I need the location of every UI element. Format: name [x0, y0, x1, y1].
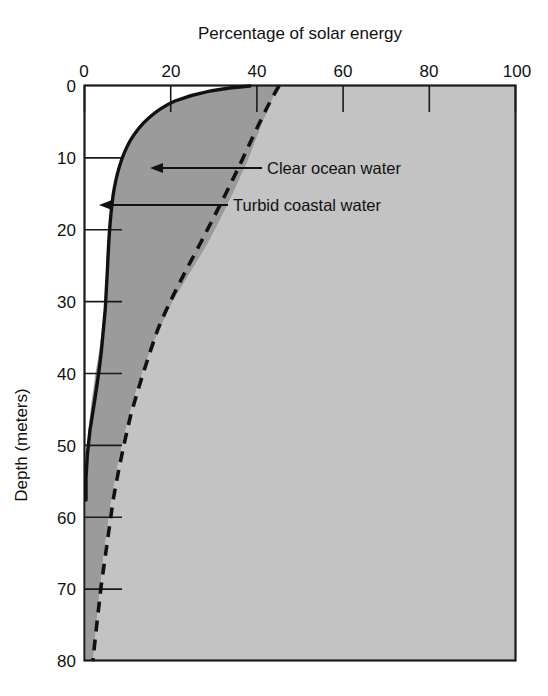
y-tick-label-20: 20: [57, 221, 76, 240]
y-axis-tick-labels: 0 10 20 30 40 50 60 70 80: [57, 77, 76, 671]
solar-energy-depth-chart: Percentage of solar energy Depth (meters…: [0, 0, 548, 696]
x-tick-label-100: 100: [503, 62, 531, 81]
x-tick-label-20: 20: [162, 62, 181, 81]
x-tick-label-0: 0: [79, 62, 88, 81]
clear-ocean-water-label: Clear ocean water: [267, 159, 401, 177]
chart-svg: Percentage of solar energy Depth (meters…: [0, 0, 548, 696]
x-tick-label-40: 40: [248, 62, 267, 81]
y-tick-label-10: 10: [57, 149, 76, 168]
y-tick-label-50: 50: [57, 437, 76, 456]
x-axis-tick-labels: 0 20 40 60 80 100: [79, 62, 531, 81]
x-tick-label-80: 80: [420, 62, 439, 81]
y-tick-label-70: 70: [57, 580, 76, 599]
y-tick-label-60: 60: [57, 509, 76, 528]
y-tick-label-40: 40: [57, 365, 76, 384]
x-axis-title: Percentage of solar energy: [198, 24, 403, 43]
y-tick-label-80: 80: [57, 652, 76, 671]
turbid-coastal-arrow-icon: [99, 200, 112, 210]
y-tick-label-30: 30: [57, 293, 76, 312]
y-tick-label-0: 0: [67, 77, 76, 96]
turbid-coastal-water-label: Turbid coastal water: [233, 196, 381, 214]
x-tick-label-60: 60: [334, 62, 353, 81]
y-axis-title: Depth (meters): [12, 388, 31, 501]
